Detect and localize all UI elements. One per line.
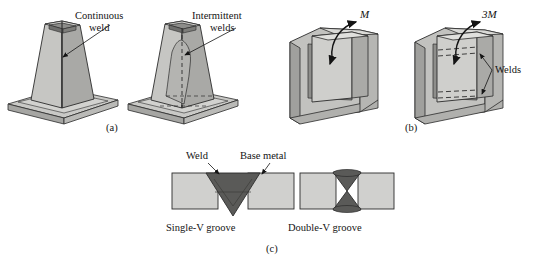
- inserted-plate-left: [312, 32, 368, 102]
- leader-weld-c: [208, 163, 219, 174]
- label-weld: Weld: [186, 150, 208, 162]
- caption-c: (c): [266, 243, 278, 254]
- tapered-column-right: [151, 21, 214, 108]
- inserted-plate-right: [437, 32, 493, 102]
- welded-joints-figure: [0, 0, 545, 261]
- label-welds: Welds: [495, 64, 521, 76]
- leader-base-metal-c: [262, 163, 270, 174]
- panel-c-double-v: [300, 170, 394, 213]
- base-metal-left-plate-dv: [300, 173, 336, 209]
- caption-a: (a): [106, 122, 118, 133]
- base-metal-right-plate-dv: [358, 173, 394, 209]
- panel-a-continuous-column: [8, 21, 118, 124]
- label-intermittent-line2: welds: [192, 22, 235, 34]
- panel-b-bracket-m: [290, 22, 378, 124]
- label-continuous-weld: Continuousweld: [75, 10, 123, 34]
- panel-b-bracket-3m: [415, 22, 503, 124]
- caption-b: (b): [405, 122, 417, 133]
- panel-c-single-v: [172, 163, 294, 216]
- double-v-crown-top: [333, 170, 361, 177]
- label-single-v-groove: Single-V groove: [166, 222, 236, 234]
- label-intermittent-line1: Intermittent: [192, 10, 242, 21]
- label-base-metal: Base metal: [240, 150, 286, 162]
- label-continuous-weld-line2: weld: [75, 22, 109, 34]
- tapered-column-left: [31, 21, 94, 108]
- label-double-v-groove: Double-V groove: [288, 222, 362, 234]
- label-continuous-weld-line1: Continuous: [75, 10, 123, 21]
- double-v-crown-bottom: [333, 206, 361, 213]
- label-intermittent-welds: Intermittentwelds: [192, 10, 242, 34]
- label-moment-m: M: [360, 8, 369, 20]
- label-moment-3m: 3M: [482, 8, 497, 20]
- panel-a-intermittent-column: [128, 21, 238, 124]
